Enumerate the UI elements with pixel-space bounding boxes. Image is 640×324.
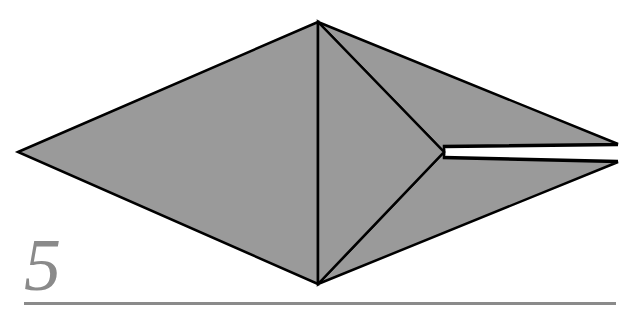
left-diamond-half — [18, 22, 318, 284]
fold-diagram — [0, 0, 640, 324]
baseline-rule — [24, 302, 616, 305]
step-number: 5 — [24, 228, 61, 302]
